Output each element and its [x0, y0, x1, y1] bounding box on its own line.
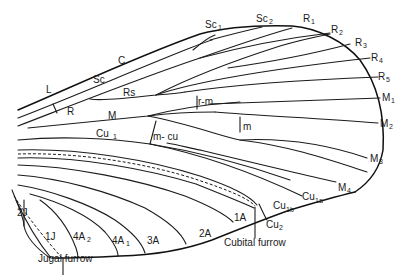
- vein-2a: [18, 175, 186, 244]
- label-sc2: Sc 2: [256, 13, 273, 25]
- vein-cu2-tip: [259, 204, 267, 220]
- svg-text:5: 5: [386, 76, 390, 83]
- svg-text:1b: 1b: [286, 206, 294, 213]
- svg-text:1: 1: [126, 240, 130, 247]
- label-3a: 3A: [147, 235, 160, 246]
- label-m4: M 4: [338, 182, 351, 194]
- svg-text:4A: 4A: [73, 231, 86, 242]
- svg-text:4A: 4A: [112, 235, 125, 246]
- label-sc1: Sc 1: [205, 19, 222, 31]
- wing-venation-diagram: C Sc L R Rs M r-m m m- cu Cu 1 Sc 1 Sc 2…: [0, 0, 404, 275]
- svg-text:2: 2: [87, 236, 91, 243]
- label-4a2: 4A 2: [73, 231, 91, 243]
- label-m: M: [108, 110, 116, 121]
- vein-cu1a: [150, 144, 302, 196]
- label-m1: M 1: [382, 92, 395, 104]
- label-r1: R 1: [303, 13, 315, 25]
- svg-text:3: 3: [379, 158, 383, 165]
- svg-text:3: 3: [363, 42, 367, 49]
- vein-r5: [185, 77, 378, 92]
- label-2a: 2A: [199, 228, 212, 239]
- vein-m4: [200, 150, 336, 182]
- vein-r4: [156, 58, 370, 95]
- label-m3: M 3: [370, 153, 383, 165]
- svg-text:R: R: [303, 13, 310, 24]
- vein-r3: [228, 44, 350, 68]
- svg-text:Cu: Cu: [273, 200, 286, 211]
- svg-text:M: M: [338, 182, 346, 193]
- svg-text:1a: 1a: [315, 197, 323, 204]
- svg-text:Cu: Cu: [96, 128, 109, 139]
- label-cu1: Cu 1: [96, 128, 117, 140]
- svg-text:2: 2: [269, 18, 273, 25]
- svg-text:R: R: [371, 52, 378, 63]
- vein-sc: [18, 40, 212, 118]
- label-sc: Sc: [93, 74, 105, 85]
- label-m2: M 2: [380, 118, 393, 130]
- svg-text:2: 2: [389, 123, 393, 130]
- label-r3: R 3: [355, 37, 367, 49]
- label-r2: R 2: [331, 24, 343, 36]
- vein-2j: [12, 190, 50, 258]
- label-mcu: m- cu: [153, 131, 178, 142]
- vein-4a1: [30, 194, 118, 256]
- svg-text:Cu: Cu: [266, 219, 279, 230]
- label-cu1b: Cu 1b: [273, 200, 294, 213]
- svg-text:2: 2: [339, 29, 343, 36]
- svg-text:Sc: Sc: [205, 19, 217, 30]
- svg-text:R: R: [331, 24, 338, 35]
- vein-r2: [200, 33, 330, 58]
- label-cubital-furrow: Cubital furrow: [224, 237, 286, 248]
- vein-r: [18, 28, 292, 126]
- vein-4a2: [40, 200, 78, 258]
- svg-text:R: R: [355, 37, 362, 48]
- label-cu1a: Cu 1a: [302, 191, 323, 204]
- label-jugal-furrow: Jugal furrow: [38, 253, 93, 264]
- label-c: C: [118, 55, 125, 66]
- label-rs: Rs: [123, 87, 135, 98]
- svg-text:1: 1: [218, 24, 222, 31]
- svg-text:1: 1: [391, 97, 395, 104]
- svg-text:M: M: [380, 118, 388, 129]
- svg-text:1: 1: [311, 18, 315, 25]
- label-l: L: [46, 84, 52, 95]
- vein-m1: [210, 98, 380, 104]
- svg-text:1: 1: [113, 133, 117, 140]
- svg-text:R: R: [378, 71, 385, 82]
- label-r4: R 4: [371, 52, 383, 64]
- label-rm: r-m: [198, 96, 213, 107]
- label-4a1: 4A 1: [112, 235, 130, 247]
- svg-text:Sc: Sc: [256, 13, 268, 24]
- svg-text:4: 4: [347, 187, 351, 194]
- label-1j: 1J: [45, 231, 56, 242]
- label-r5: R 5: [378, 71, 390, 83]
- svg-text:4: 4: [379, 57, 383, 64]
- label-m-crossvein: m: [243, 121, 251, 132]
- label-r: R: [67, 106, 74, 117]
- label-1a: 1A: [234, 212, 247, 223]
- svg-text:M: M: [370, 153, 378, 164]
- svg-text:2: 2: [279, 224, 283, 231]
- svg-text:M: M: [382, 92, 390, 103]
- svg-text:Cu: Cu: [302, 191, 315, 202]
- vein-1a: [18, 165, 233, 222]
- label-cu2: Cu 2: [266, 219, 283, 231]
- label-2j: 2J: [17, 207, 28, 218]
